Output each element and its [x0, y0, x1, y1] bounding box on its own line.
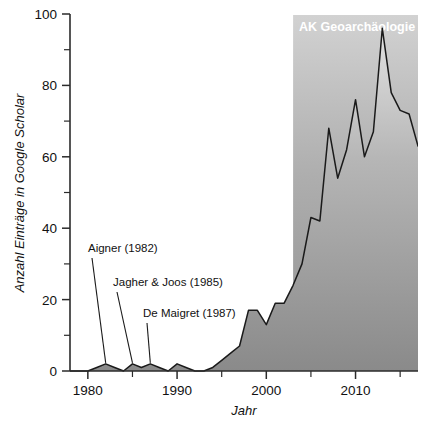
y-axis-title: Anzahl Einträge in Google Scholar	[12, 93, 27, 293]
y-axis-tick-label: 60	[42, 150, 57, 165]
x-axis-tick-label: 2010	[341, 383, 371, 398]
legend-label: AK Geoarchäologie	[299, 20, 415, 34]
x-axis-tick-label: 1990	[162, 383, 192, 398]
y-axis-tick-label: 20	[42, 293, 57, 308]
google-scholar-entries-area-chart: AK Geoarchäologie 020406080100 198019902…	[0, 0, 432, 425]
y-axis-tick-label: 0	[49, 364, 57, 379]
annotation-label: De Maigret (1987)	[143, 307, 236, 319]
y-axis-tick-label: 40	[42, 221, 57, 236]
annotation-label: Aigner (1982)	[88, 242, 158, 254]
chart-container: AK Geoarchäologie 020406080100 198019902…	[0, 0, 432, 425]
x-axis-tick-label: 1980	[73, 383, 103, 398]
y-axis-tick-label: 80	[42, 78, 57, 93]
x-axis-title: Jahr	[230, 403, 257, 418]
y-axis-tick-label: 100	[34, 7, 57, 22]
annotation-label: Jagher & Joos (1985)	[113, 276, 223, 288]
x-axis-tick-label: 2000	[251, 383, 281, 398]
